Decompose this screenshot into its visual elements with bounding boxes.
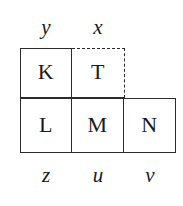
grid-cell-m: M <box>72 98 124 153</box>
grid-cell-t: T <box>72 48 124 98</box>
cell-label-n: N <box>141 114 157 136</box>
grid-cell-n: N <box>124 98 176 153</box>
bottom-label-u: u <box>72 162 124 188</box>
cell-label-l: L <box>39 114 53 136</box>
bottom-variable-labels: z u v <box>20 162 175 188</box>
bottom-label-z: z <box>20 162 72 188</box>
cell-label-t: T <box>91 61 105 83</box>
dashed-top-edge <box>72 48 125 49</box>
cell-label-k: K <box>38 61 54 83</box>
dashed-right-edge <box>124 48 125 98</box>
top-label-y: y <box>20 14 72 40</box>
bottom-label-v: v <box>124 162 176 188</box>
top-variable-labels: y x <box>20 14 175 40</box>
cell-label-m: M <box>87 114 107 136</box>
grid-cell-l: L <box>20 98 72 153</box>
cell-grid: K T L M N <box>20 48 176 153</box>
top-label-x: x <box>72 14 124 40</box>
grid-cell-k: K <box>20 48 72 98</box>
figure-canvas: y x K T L M N z u v <box>0 0 183 206</box>
